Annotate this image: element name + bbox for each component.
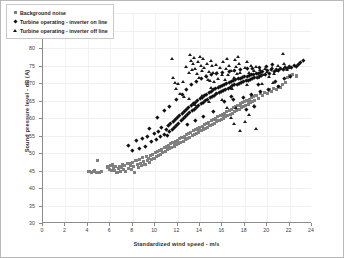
scatter-chart-figure: 30354045505560657075808590 0246810121416… <box>0 0 344 258</box>
data-point-series-2 <box>220 98 224 101</box>
x-tick-mark <box>244 223 245 226</box>
data-point-series-1 <box>157 129 161 133</box>
data-point-series-2 <box>224 67 228 70</box>
legend-item-0[interactable]: Background noise <box>11 8 108 17</box>
data-point-series-2 <box>252 104 256 107</box>
data-point-series-2 <box>237 62 241 65</box>
y-tick-mark <box>39 206 42 207</box>
data-point-series-2 <box>247 113 251 116</box>
y-tick-mark <box>39 66 42 67</box>
data-point-series-0 <box>124 170 127 173</box>
y-tick-mark <box>39 118 42 119</box>
data-point-series-2 <box>245 60 249 63</box>
legend-marker-diamond-icon <box>11 20 19 23</box>
data-point-series-2 <box>247 71 251 74</box>
y-tick-label: 35 <box>11 203 35 209</box>
y-tick-label: 45 <box>11 168 35 174</box>
data-point-series-1 <box>141 136 145 140</box>
data-point-series-2 <box>178 92 182 95</box>
y-tick-label: 30 <box>11 220 35 226</box>
plot-area <box>42 13 311 223</box>
data-point-series-2 <box>265 70 269 73</box>
y-tick-label: 60 <box>11 115 35 121</box>
data-point-series-0 <box>96 159 99 162</box>
legend-item-1[interactable]: Turbine operating - inverter on line <box>11 17 108 26</box>
data-point-series-2 <box>187 71 191 74</box>
y-tick-mark <box>39 153 42 154</box>
data-point-series-0 <box>257 97 260 100</box>
data-point-series-0 <box>275 88 278 91</box>
data-point-series-2 <box>207 100 211 103</box>
data-point-series-1 <box>211 109 215 113</box>
data-point-series-2 <box>207 70 211 73</box>
data-point-series-2 <box>236 55 240 58</box>
data-point-series-2 <box>181 80 185 83</box>
data-point-series-2 <box>182 95 186 98</box>
data-point-series-2 <box>225 106 229 109</box>
x-tick-label: 2 <box>54 227 74 233</box>
data-point-series-0 <box>261 94 264 97</box>
data-point-series-2 <box>202 66 206 69</box>
data-point-series-2 <box>209 86 213 89</box>
data-point-series-2 <box>187 97 191 100</box>
data-point-series-2 <box>256 76 260 79</box>
data-point-series-1 <box>159 135 163 139</box>
y-tick-mark <box>39 171 42 172</box>
x-tick-mark <box>199 223 200 226</box>
legend-item-label: Turbine operating - inverter off line <box>20 28 108 34</box>
x-tick-label: 16 <box>211 227 231 233</box>
data-point-series-1 <box>244 107 248 111</box>
data-point-series-1 <box>126 143 130 147</box>
x-tick-label: 14 <box>189 227 209 233</box>
y-tick-label: 50 <box>11 150 35 156</box>
y-tick-mark <box>39 101 42 102</box>
data-point-series-2 <box>238 129 242 132</box>
data-point-series-1 <box>148 126 152 130</box>
x-tick-label: 18 <box>234 227 254 233</box>
x-tick-label: 6 <box>99 227 119 233</box>
data-point-series-2 <box>233 58 237 61</box>
data-point-series-1 <box>154 137 158 141</box>
data-point-series-0 <box>284 81 287 84</box>
data-point-series-2 <box>192 56 196 59</box>
x-tick-label: 12 <box>167 227 187 233</box>
data-point-series-2 <box>234 65 238 68</box>
legend-item-2[interactable]: Turbine operating - inverter off line <box>11 26 108 35</box>
y-tick-label: 40 <box>11 185 35 191</box>
x-tick-label: 8 <box>122 227 142 233</box>
data-point-series-2 <box>215 71 219 74</box>
data-point-series-2 <box>221 60 225 63</box>
data-point-series-2 <box>226 73 230 76</box>
data-point-series-0 <box>133 171 136 174</box>
data-point-series-2 <box>216 77 220 80</box>
gridline-vertical <box>290 13 291 222</box>
data-point-series-2 <box>243 66 247 69</box>
data-point-series-2 <box>260 82 264 85</box>
data-point-series-2 <box>272 72 276 75</box>
data-point-series-2 <box>200 69 204 72</box>
x-tick-mark <box>64 223 65 226</box>
data-point-series-2 <box>193 103 197 106</box>
data-point-series-2 <box>281 52 285 55</box>
data-point-series-2 <box>254 65 258 68</box>
data-point-series-1 <box>185 87 189 91</box>
data-point-series-2 <box>225 57 229 60</box>
data-point-series-1 <box>150 140 154 144</box>
data-point-series-0 <box>148 161 151 164</box>
data-point-series-1 <box>301 58 305 62</box>
x-tick-label: 20 <box>256 227 276 233</box>
chart-legend: Background noiseTurbine operating - inve… <box>6 4 114 39</box>
data-point-series-2 <box>170 57 174 60</box>
data-point-series-2 <box>197 76 201 79</box>
data-point-series-1 <box>189 83 193 87</box>
data-point-series-2 <box>171 76 175 79</box>
x-tick-label: 24 <box>301 227 321 233</box>
y-axis-title: Sound pressure level - dB (A) <box>24 36 30 186</box>
y-tick-label: 65 <box>11 98 35 104</box>
x-tick-label: 4 <box>77 227 97 233</box>
data-point-series-2 <box>227 64 231 67</box>
data-point-series-2 <box>176 82 180 85</box>
gridline-vertical <box>267 13 268 222</box>
data-point-series-0 <box>270 90 273 93</box>
data-point-series-1 <box>137 146 141 150</box>
